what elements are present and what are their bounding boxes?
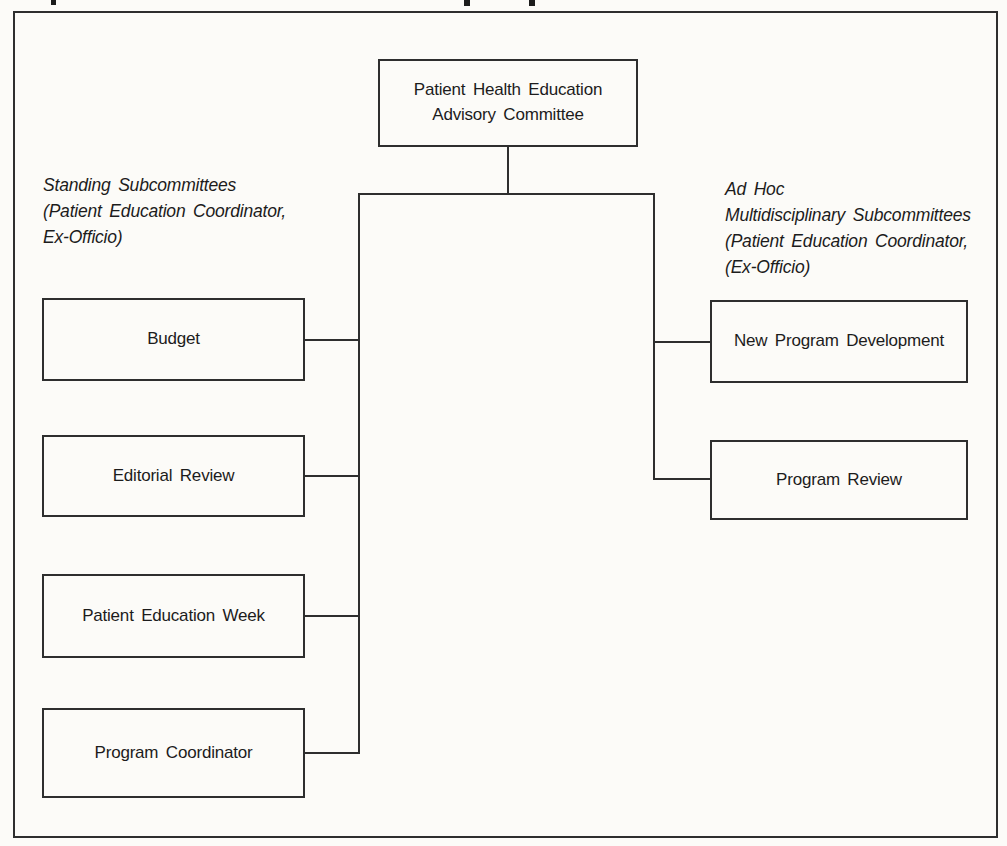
org-chart-page: Patient Health Education Advisory Commit… xyxy=(0,0,1007,846)
heading-line: (Patient Education Coordinator, xyxy=(43,199,286,225)
heading-line: (Patient Education Coordinator, xyxy=(725,229,971,255)
org-box-label: Budget xyxy=(147,327,200,352)
org-box-program-review: Program Review xyxy=(710,440,968,520)
cropped-text-artifact xyxy=(51,0,56,5)
heading-line: Ad Hoc xyxy=(725,177,971,203)
right-section-heading: Ad Hoc Multidisciplinary Subcommittees (… xyxy=(725,177,971,281)
connector-crossbar xyxy=(358,193,655,195)
org-box-label: New Program Development xyxy=(734,329,944,354)
org-box-editorial-review: Editorial Review xyxy=(42,435,305,517)
connector-left-trunk xyxy=(358,193,360,754)
connector-program-review xyxy=(653,478,711,480)
org-box-label: Editorial Review xyxy=(113,464,235,489)
org-box-label: Program Review xyxy=(776,468,902,493)
connector-budget xyxy=(303,339,359,341)
org-box-label-line: Advisory Committee xyxy=(432,103,584,128)
org-box-program-coordinator: Program Coordinator xyxy=(42,708,305,798)
heading-line: (Ex-Officio) xyxy=(725,255,971,281)
connector-patient-education-week xyxy=(303,615,359,617)
org-box-label: Program Coordinator xyxy=(95,741,253,766)
left-section-heading: Standing Subcommittees (Patient Educatio… xyxy=(43,173,286,251)
connector-right-trunk xyxy=(653,193,655,480)
connector-root-stem xyxy=(507,147,509,193)
org-box-patient-education-week: Patient Education Week xyxy=(42,574,305,658)
heading-line: Ex-Officio) xyxy=(43,225,286,251)
org-box-label-line: Patient Health Education xyxy=(414,78,602,103)
org-box-label: Patient Education Week xyxy=(82,604,265,629)
connector-program-coordinator xyxy=(303,752,359,754)
org-box-budget: Budget xyxy=(42,298,305,381)
heading-line: Standing Subcommittees xyxy=(43,173,286,199)
cropped-text-artifact xyxy=(464,0,470,6)
org-box-new-program-development: New Program Development xyxy=(710,300,968,383)
cropped-text-artifact xyxy=(529,0,535,6)
connector-new-program-development xyxy=(653,341,711,343)
connector-editorial-review xyxy=(303,475,359,477)
org-box-advisory-committee: Patient Health Education Advisory Commit… xyxy=(378,59,638,147)
heading-line: Multidisciplinary Subcommittees xyxy=(725,203,971,229)
